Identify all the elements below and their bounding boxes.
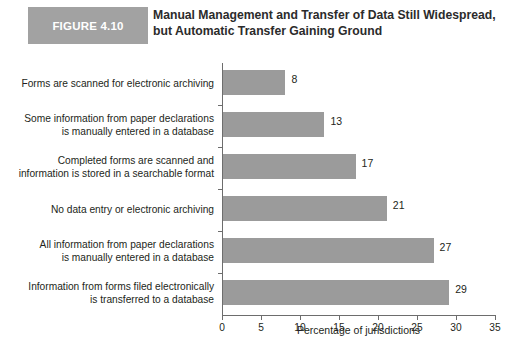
y-axis-tick [218,231,223,232]
category-label: Some information from paper declarations… [9,113,214,138]
category-label-line: is transferred to a database [9,294,214,307]
y-axis-tick [218,189,223,190]
bar-value-label: 13 [330,115,342,127]
x-axis-line [222,315,495,316]
bar-value-label: 27 [440,241,452,253]
bar [223,70,285,95]
plot-area: 81317212729 05101520253035 [222,63,495,315]
bar-value-label: 29 [455,283,467,295]
bar-value-label: 17 [362,157,374,169]
category-label-line: No data entry or electronic archiving [9,204,214,217]
category-label: Forms are scanned for electronic archivi… [9,78,214,91]
x-axis-tick [417,315,418,320]
category-label-line: Information from forms filed electronica… [9,281,214,294]
bar-row: 27 [222,231,495,271]
bar-row: 13 [222,105,495,145]
x-axis-tick [261,315,262,320]
bar [223,196,387,221]
bar [223,280,449,305]
bar-row: 29 [222,273,495,313]
figure-header: FIGURE 4.10 Manual Management and Transf… [0,0,513,48]
x-axis-tick [300,315,301,320]
category-label-line: is manually entered in a database [9,252,214,265]
bar-row: 17 [222,147,495,187]
bar-row: 8 [222,63,495,103]
x-axis-title: Percentage of jurisdictions [222,324,495,336]
y-axis-tick [218,105,223,106]
category-label-line: is manually entered in a database [9,126,214,139]
category-label: Completed forms are scanned andinformati… [9,155,214,180]
category-label-line: All information from paper declarations [9,239,214,252]
bar [223,154,356,179]
figure-title-line-2: but Automatic Transfer Gaining Ground [153,23,505,39]
figure-title-line-1: Manual Management and Transfer of Data S… [153,7,505,23]
bar-value-label: 8 [291,73,297,85]
x-axis-tick [339,315,340,320]
category-label-line: Completed forms are scanned and [9,155,214,168]
bar [223,238,434,263]
x-axis-tick [456,315,457,320]
category-label-line: information is stored in a searchable fo… [9,168,214,181]
x-axis-tick [378,315,379,320]
category-label: Information from forms filed electronica… [9,281,214,306]
x-axis-tick [222,315,223,320]
bar-value-label: 21 [393,199,405,211]
y-axis-tick [218,273,223,274]
bar [223,112,324,137]
figure-number-label: FIGURE 4.10 [52,20,123,32]
category-label: All information from paper declarationsi… [9,239,214,264]
category-label-line: Forms are scanned for electronic archivi… [9,78,214,91]
x-axis-tick [495,315,496,320]
bar-row: 21 [222,189,495,229]
category-label: No data entry or electronic archiving [9,204,214,217]
y-axis-tick [218,147,223,148]
figure-title: Manual Management and Transfer of Data S… [153,7,505,39]
category-label-line: Some information from paper declarations [9,113,214,126]
figure-number-badge: FIGURE 4.10 [28,7,148,44]
category-axis-labels: Forms are scanned for electronic archivi… [8,63,214,315]
bar-chart: Forms are scanned for electronic archivi… [0,48,513,349]
